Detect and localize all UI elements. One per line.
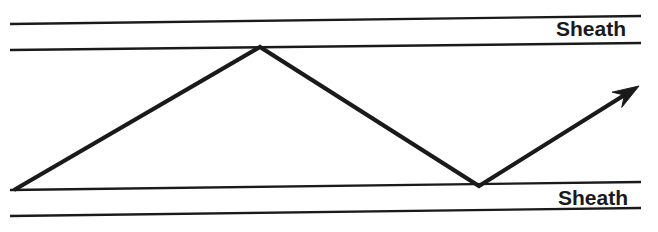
top-outer-sheath-line bbox=[10, 16, 641, 24]
zigzag-light-ray bbox=[14, 47, 625, 190]
top-inner-core-line bbox=[10, 43, 641, 50]
bottom-outer-sheath-line bbox=[10, 208, 641, 216]
sheath-label-top: Sheath bbox=[556, 18, 626, 39]
bottom-inner-core-line bbox=[10, 182, 641, 190]
zigzag-light-ray-group bbox=[14, 47, 639, 190]
sheath-boundary-lines bbox=[10, 16, 641, 216]
ray-propagation-figure: Sheath Sheath bbox=[0, 0, 658, 232]
ray-direction-arrowhead bbox=[612, 86, 639, 107]
sheath-label-bottom: Sheath bbox=[558, 187, 628, 208]
